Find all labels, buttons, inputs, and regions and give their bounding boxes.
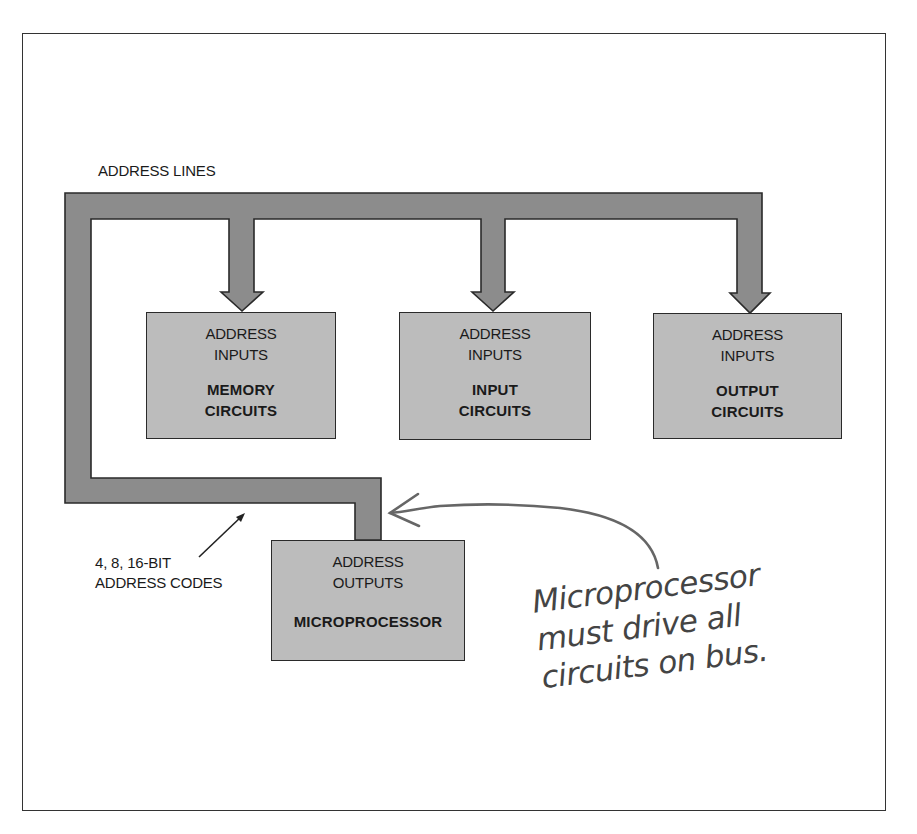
input-sub2: INPUTS bbox=[400, 344, 590, 365]
output-title1: OUTPUT bbox=[654, 380, 841, 401]
microprocessor-sub1: ADDRESS bbox=[272, 551, 464, 572]
bus-width-line1: 4, 8, 16-BIT bbox=[95, 553, 222, 573]
output-sub1: ADDRESS bbox=[654, 324, 841, 345]
memory-sub1: ADDRESS bbox=[147, 323, 335, 344]
memory-circuits-box: ADDRESS INPUTS MEMORY CIRCUITS bbox=[146, 312, 336, 439]
output-circuits-box: ADDRESS INPUTS OUTPUT CIRCUITS bbox=[653, 313, 842, 439]
input-title1: INPUT bbox=[400, 379, 590, 400]
microprocessor-box: ADDRESS OUTPUTS MICROPROCESSOR bbox=[271, 540, 465, 661]
bus-width-label: 4, 8, 16-BIT ADDRESS CODES bbox=[95, 553, 222, 593]
microprocessor-sub2: OUTPUTS bbox=[272, 572, 464, 593]
address-lines-label: ADDRESS LINES bbox=[98, 161, 215, 181]
input-title2: CIRCUITS bbox=[400, 400, 590, 421]
bus-width-line2: ADDRESS CODES bbox=[95, 573, 222, 593]
output-title2: CIRCUITS bbox=[654, 401, 841, 422]
microprocessor-title: MICROPROCESSOR bbox=[272, 611, 464, 632]
bus-width-pointer bbox=[199, 513, 245, 557]
input-circuits-box: ADDRESS INPUTS INPUT CIRCUITS bbox=[399, 312, 591, 440]
memory-sub2: INPUTS bbox=[147, 344, 335, 365]
memory-title2: CIRCUITS bbox=[147, 400, 335, 421]
memory-title1: MEMORY bbox=[147, 379, 335, 400]
input-sub1: ADDRESS bbox=[400, 323, 590, 344]
output-sub2: INPUTS bbox=[654, 345, 841, 366]
